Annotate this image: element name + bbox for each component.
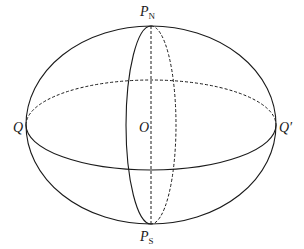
meridian-back-dashed: [151, 26, 176, 224]
label-south-pole-sub: S: [149, 236, 154, 246]
label-q: Q: [13, 120, 23, 135]
label-south-pole-main: P: [139, 229, 149, 244]
label-q-prime: Q′: [279, 120, 293, 135]
label-north-pole: PN: [139, 4, 156, 21]
label-north-pole-main: P: [139, 4, 149, 19]
label-origin: O: [139, 120, 149, 135]
ellipsoid-diagram: PN PS Q Q′ O: [0, 0, 304, 249]
label-south-pole: PS: [139, 229, 154, 246]
outer-ellipse: [26, 26, 276, 224]
label-north-pole-sub: N: [149, 11, 156, 21]
